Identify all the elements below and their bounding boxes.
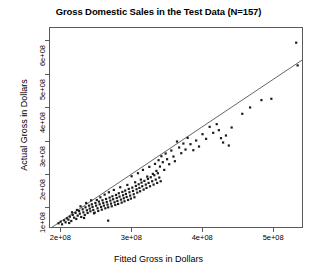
data-point [94, 202, 96, 204]
x-tick-label: 5e+08 [253, 233, 293, 242]
data-point [160, 180, 162, 182]
plot-area [49, 27, 303, 228]
data-point [111, 195, 113, 197]
data-point [115, 194, 117, 196]
data-point [70, 220, 72, 222]
data-point [139, 190, 141, 192]
fit-line [51, 60, 302, 228]
data-point [152, 173, 154, 175]
data-point [231, 126, 233, 128]
data-point [130, 198, 132, 200]
data-point [174, 160, 176, 162]
data-point [113, 189, 115, 191]
data-point [93, 212, 95, 214]
data-point [97, 210, 99, 212]
data-point [178, 146, 180, 148]
data-point [107, 220, 109, 222]
data-point [114, 204, 116, 206]
data-point [132, 190, 134, 192]
data-point [142, 169, 144, 171]
data-point [129, 195, 131, 197]
data-point [127, 199, 129, 201]
data-point [126, 196, 128, 198]
data-point [145, 183, 147, 185]
data-point [72, 214, 74, 216]
data-point [101, 209, 103, 211]
data-point [88, 205, 90, 207]
data-point [118, 196, 120, 198]
data-point [228, 144, 230, 146]
data-point [69, 216, 71, 218]
data-point [128, 188, 130, 190]
data-point [136, 192, 138, 194]
data-point [155, 170, 157, 172]
data-point [148, 182, 150, 184]
data-point [84, 206, 86, 208]
data-point [109, 197, 111, 199]
data-point [162, 161, 164, 163]
data-point [172, 155, 174, 157]
data-point [222, 141, 224, 143]
data-point [86, 209, 88, 211]
data-point [117, 203, 119, 205]
data-point [118, 192, 120, 194]
data-point [151, 180, 153, 182]
data-point [124, 190, 126, 192]
data-point [92, 209, 94, 211]
data-point [145, 187, 147, 189]
data-point [176, 140, 178, 142]
data-point [82, 208, 84, 210]
data-point [104, 194, 106, 196]
data-point [96, 207, 98, 209]
data-point [71, 211, 73, 213]
data-point [198, 145, 200, 147]
data-point [195, 139, 197, 141]
data-point [154, 163, 156, 165]
data-point [65, 221, 67, 223]
data-point [225, 134, 227, 136]
data-point [146, 175, 148, 177]
data-point [60, 221, 62, 223]
data-point [110, 203, 112, 205]
data-point [133, 193, 135, 195]
data-point [123, 197, 125, 199]
data-point [63, 219, 65, 221]
data-point [84, 214, 86, 216]
data-point [295, 42, 297, 44]
data-point [165, 152, 167, 154]
data-point [89, 208, 91, 210]
data-point [120, 199, 122, 201]
data-point [143, 180, 145, 182]
data-point [99, 203, 101, 205]
data-point [260, 99, 262, 101]
data-point [78, 210, 80, 212]
data-point [91, 203, 93, 205]
data-point [111, 205, 113, 207]
data-point [157, 159, 159, 161]
data-point [91, 206, 93, 208]
data-point [182, 142, 184, 144]
data-point [180, 152, 182, 154]
data-point [61, 223, 63, 225]
data-point [119, 186, 121, 188]
y-tick-label: 4e+08 [38, 106, 47, 140]
data-point [116, 197, 118, 199]
data-point [149, 185, 151, 187]
y-tick-label: 2e+08 [38, 172, 47, 206]
data-point [76, 209, 78, 211]
data-point [133, 196, 135, 198]
data-point [121, 191, 123, 193]
y-tick-label: 5e+08 [38, 72, 47, 106]
data-point [158, 176, 160, 178]
data-point [99, 196, 101, 198]
data-point [116, 200, 118, 202]
data-point [106, 204, 108, 206]
data-point [135, 185, 137, 187]
data-point [89, 210, 91, 212]
data-point [80, 216, 82, 218]
x-axis-label: Fitted Gross in Dollars [0, 254, 317, 264]
data-point [216, 123, 218, 125]
data-point [57, 222, 59, 224]
data-point [155, 178, 157, 180]
data-point [73, 217, 75, 219]
